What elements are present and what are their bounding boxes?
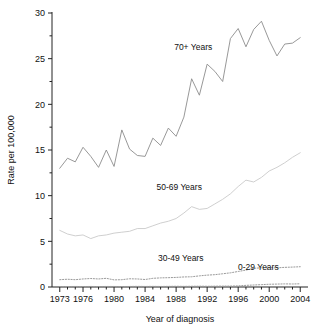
x-tick-label: 1992 — [197, 294, 217, 304]
x-tick-label: 2000 — [259, 294, 279, 304]
line-chart: 051015202530 197319761980198419881992199… — [0, 0, 318, 327]
x-tick-label: 1988 — [166, 294, 186, 304]
series-label-2: 30-49 Years — [158, 253, 203, 263]
y-tick-label: 0 — [40, 282, 45, 292]
series-label-1: 50-69 Years — [157, 182, 202, 192]
y-tick-label: 25 — [35, 54, 45, 64]
y-axis-title: Rate per 100,000 — [6, 115, 16, 185]
y-tick-label: 5 — [40, 237, 45, 247]
x-tick-label: 1980 — [104, 294, 124, 304]
x-tick-label: 1996 — [228, 294, 248, 304]
y-tick-label: 30 — [35, 8, 45, 18]
y-tick-label: 20 — [35, 100, 45, 110]
x-tick-label: 1976 — [73, 294, 93, 304]
y-tick-label: 15 — [35, 145, 45, 155]
x-tick-label: 2004 — [290, 294, 310, 304]
chart-canvas: 051015202530 197319761980198419881992199… — [0, 0, 318, 327]
x-axis-title: Year of diagnosis — [146, 314, 215, 324]
series-label-3: 0-29 Years — [238, 262, 279, 272]
series-label-0: 70+ Years — [174, 42, 212, 52]
x-tick-label: 1973 — [50, 294, 70, 304]
x-tick-label: 1984 — [135, 294, 155, 304]
y-tick-label: 10 — [35, 191, 45, 201]
